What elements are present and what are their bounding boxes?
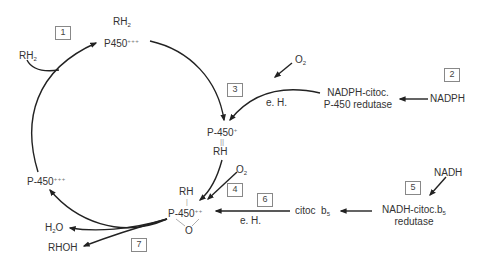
electron-transfer-label-bottom: e. H. <box>240 215 261 226</box>
substrate-rh2: RH2 <box>19 50 37 65</box>
step-box-2: 2 <box>444 68 460 82</box>
oxygen-mid: O2 <box>236 164 247 179</box>
step-box-5: 5 <box>405 181 421 195</box>
p450-oxy-complex: P-450++ <box>168 206 203 219</box>
step-box-6: 6 <box>257 193 273 207</box>
complex-p450-ferric: P450+++ <box>104 36 139 49</box>
p450-ferric-left: P-450+++ <box>27 174 66 187</box>
oxygen-top: O2 <box>295 54 306 69</box>
complex-substrate-rh2: RH2 <box>113 16 131 31</box>
substrate-rh-mid: RH <box>213 146 227 157</box>
o2-top-arrow <box>275 63 292 77</box>
nadph: NADPH <box>430 93 465 104</box>
nadph-reductase-line1: NADPH-citoc. <box>320 87 396 98</box>
electron-transfer-label-top: e. H. <box>266 97 287 108</box>
water: H2O <box>45 222 63 237</box>
step-box-7: 7 <box>131 238 147 252</box>
hydroxylated-product: RHOH <box>48 242 77 253</box>
peroxo-oxygen: O <box>185 225 193 236</box>
cytochrome-b5: citoc b5 <box>295 205 330 220</box>
nadh-arrow <box>430 177 446 195</box>
rh-to-p450pp-arrow <box>200 160 222 200</box>
cycle-arrow-top-right <box>150 41 224 120</box>
nadh: NADH <box>434 167 462 178</box>
peroxo-bond-left <box>176 219 185 226</box>
p450-cycle-diagram: 1 2 3 4 5 6 7 RH2 RH2 P450+++ O2 e. H. N… <box>0 0 482 263</box>
nadh-reductase-line2: redutase <box>374 216 454 227</box>
step-box-3: 3 <box>227 83 243 97</box>
step-box-1: 1 <box>55 26 71 40</box>
step-box-4: 4 <box>227 183 243 197</box>
cycle-arrow-left <box>32 43 96 172</box>
cycle-arrow-bottom <box>50 190 167 228</box>
peroxo-bond-right <box>192 219 199 226</box>
nadph-reductase-line2: P-450 redutase <box>320 99 396 110</box>
